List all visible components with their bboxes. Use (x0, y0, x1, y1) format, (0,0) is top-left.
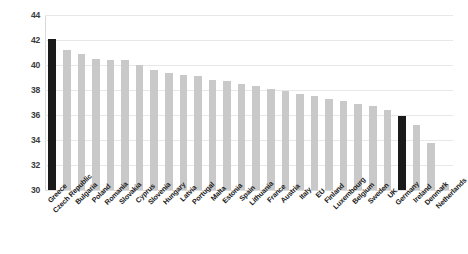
bar[interactable] (282, 91, 290, 190)
bar[interactable] (194, 76, 202, 190)
bar[interactable] (121, 60, 129, 190)
bar-slot (180, 15, 188, 190)
bar[interactable] (150, 70, 158, 190)
bar[interactable] (223, 81, 231, 190)
bar[interactable] (311, 96, 319, 190)
bar[interactable] (398, 116, 406, 190)
bar[interactable] (296, 94, 304, 190)
bar[interactable] (369, 106, 377, 190)
bar-slot (223, 15, 231, 190)
bar-slot (107, 15, 115, 190)
bar-slot (325, 15, 333, 190)
bar[interactable] (92, 59, 100, 190)
bar-slot (121, 15, 129, 190)
bar-slot (311, 15, 319, 190)
bar[interactable] (340, 101, 348, 190)
bar-slot (427, 15, 435, 190)
y-tick-label: 30 (24, 185, 40, 195)
bar[interactable] (136, 65, 144, 190)
bar-slot (442, 15, 450, 190)
bar-slot (92, 15, 100, 190)
bar-slot (63, 15, 71, 190)
bar-slot (136, 15, 144, 190)
bar-slot (165, 15, 173, 190)
x-axis-category-labels: GreeceCzech RepublicBulgariaPolandRomani… (45, 190, 453, 254)
y-tick-label: 38 (24, 85, 40, 95)
bar-slot (296, 15, 304, 190)
bar[interactable] (165, 73, 173, 191)
bar-slot (267, 15, 275, 190)
bar[interactable] (63, 50, 71, 190)
bar[interactable] (325, 99, 333, 190)
bar[interactable] (48, 39, 56, 190)
bar[interactable] (107, 60, 115, 190)
bar-slot (209, 15, 217, 190)
bar-slot (282, 15, 290, 190)
bar-slot (369, 15, 377, 190)
plot-area (45, 15, 453, 190)
bar-slot (194, 15, 202, 190)
y-tick-label: 40 (24, 60, 40, 70)
bar-slot (150, 15, 158, 190)
bar[interactable] (78, 54, 86, 190)
bar-slot (78, 15, 86, 190)
bar-slot (238, 15, 246, 190)
bar-slot (354, 15, 362, 190)
bar-slot (413, 15, 421, 190)
bar-slot (384, 15, 392, 190)
bar-series (45, 15, 453, 190)
bar[interactable] (384, 110, 392, 190)
bar[interactable] (238, 84, 246, 190)
y-tick-label: 42 (24, 35, 40, 45)
y-tick-label: 34 (24, 135, 40, 145)
bar-slot (398, 15, 406, 190)
bar[interactable] (252, 86, 260, 190)
bar[interactable] (180, 75, 188, 190)
y-tick-label: 44 (24, 10, 40, 20)
bar-slot (48, 15, 56, 190)
y-tick-label: 32 (24, 160, 40, 170)
y-tick-label: 36 (24, 110, 40, 120)
bar[interactable] (209, 80, 217, 190)
bar-slot (252, 15, 260, 190)
bar[interactable] (267, 89, 275, 190)
bar-slot (340, 15, 348, 190)
